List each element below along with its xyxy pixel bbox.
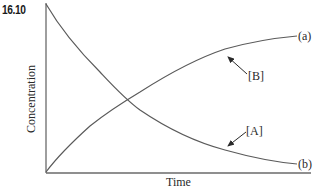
curve-b-end-label: (b) xyxy=(298,157,312,171)
callout-b-arrow xyxy=(228,57,247,74)
reaction-kinetics-figure: 16.10 (a) (b) [B] [A] Time Concentration xyxy=(0,0,317,190)
curve-a-end-label: (a) xyxy=(298,29,311,43)
curve-a-decay xyxy=(46,4,297,164)
callout-a-arrow xyxy=(228,132,246,146)
callout-a-label: [A] xyxy=(246,124,263,138)
concentration-time-plot: (a) (b) [B] [A] Time Concentration xyxy=(0,0,317,190)
curve-b-rise xyxy=(46,36,297,172)
callout-b-label: [B] xyxy=(248,69,264,83)
y-axis-label: Concentration xyxy=(24,65,38,133)
x-axis-label: Time xyxy=(166,175,191,189)
